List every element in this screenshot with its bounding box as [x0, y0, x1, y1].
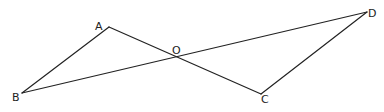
label-o: O — [172, 44, 181, 57]
geometry-diagram: A B O C D — [0, 0, 384, 112]
segment-ac — [109, 27, 261, 94]
label-c: C — [261, 93, 269, 106]
label-a: A — [95, 20, 103, 33]
label-b: B — [12, 91, 20, 104]
segments — [22, 12, 367, 94]
label-d: D — [368, 7, 376, 20]
labels: A B O C D — [12, 7, 376, 106]
